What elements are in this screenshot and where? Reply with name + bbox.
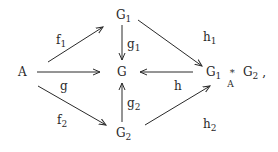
- node-A: A: [18, 66, 27, 78]
- node-G1: G1: [116, 9, 131, 21]
- node-amalgamated-product: G1 * A G2 ,: [206, 66, 266, 79]
- label-g: g: [60, 80, 68, 92]
- label-h: h: [174, 80, 182, 92]
- node-G2: G2: [116, 127, 131, 139]
- label-h1: h1: [203, 31, 216, 43]
- free-product-star: *: [230, 67, 235, 78]
- label-f1: f1: [56, 34, 66, 46]
- arrow-h1: [138, 20, 202, 66]
- label-g2: g2: [127, 97, 140, 109]
- arrow-f2: [38, 86, 106, 125]
- label-g1: g1: [127, 38, 140, 50]
- node-G: G: [117, 66, 127, 78]
- label-h2: h2: [203, 118, 216, 130]
- label-f2: f2: [57, 114, 67, 126]
